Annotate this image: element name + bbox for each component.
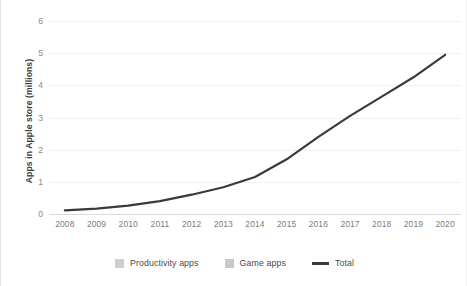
total-line-path [65, 55, 445, 211]
y-tick-label: 6 [15, 16, 43, 26]
y-tick-label: 5 [15, 48, 43, 58]
y-axis-tick-labels: 0123456 [11, 21, 43, 214]
legend-item[interactable]: Game apps [225, 258, 286, 268]
gridline-0 [49, 214, 461, 215]
x-tick-label: 2020 [429, 219, 461, 229]
x-tick-label: 2009 [81, 219, 113, 229]
legend-label: Total [335, 258, 354, 268]
y-tick-label: 4 [15, 80, 43, 90]
x-tick-label: 2012 [176, 219, 208, 229]
x-tick-label: 2008 [49, 219, 81, 229]
chart-container: Apps in Apple store (millions) 0123456 2… [0, 0, 467, 286]
x-axis-tick-labels: 2008200920102011201220132014201520162017… [49, 219, 461, 229]
x-tick-label: 2011 [144, 219, 176, 229]
line-swatch-icon [312, 262, 329, 265]
legend-item[interactable]: Productivity apps [115, 258, 199, 268]
legend-item[interactable]: Total [312, 258, 354, 268]
y-tick-label: 1 [15, 177, 43, 187]
square-swatch-icon [225, 259, 234, 268]
x-tick-label: 2015 [271, 219, 303, 229]
x-tick-label: 2013 [207, 219, 239, 229]
x-tick-label: 2010 [112, 219, 144, 229]
y-tick-label: 3 [15, 113, 43, 123]
x-tick-label: 2017 [334, 219, 366, 229]
x-tick-label: 2016 [303, 219, 335, 229]
legend-label: Game apps [240, 258, 286, 268]
y-tick-label: 2 [15, 145, 43, 155]
y-tick-label: 0 [15, 209, 43, 219]
chart-legend: Productivity appsGame appsTotal [1, 258, 467, 268]
x-tick-label: 2018 [366, 219, 398, 229]
total-line-series [49, 21, 461, 214]
plot-area [49, 21, 461, 214]
legend-label: Productivity apps [130, 258, 199, 268]
x-tick-label: 2019 [398, 219, 430, 229]
square-swatch-icon [115, 259, 124, 268]
x-tick-label: 2014 [239, 219, 271, 229]
